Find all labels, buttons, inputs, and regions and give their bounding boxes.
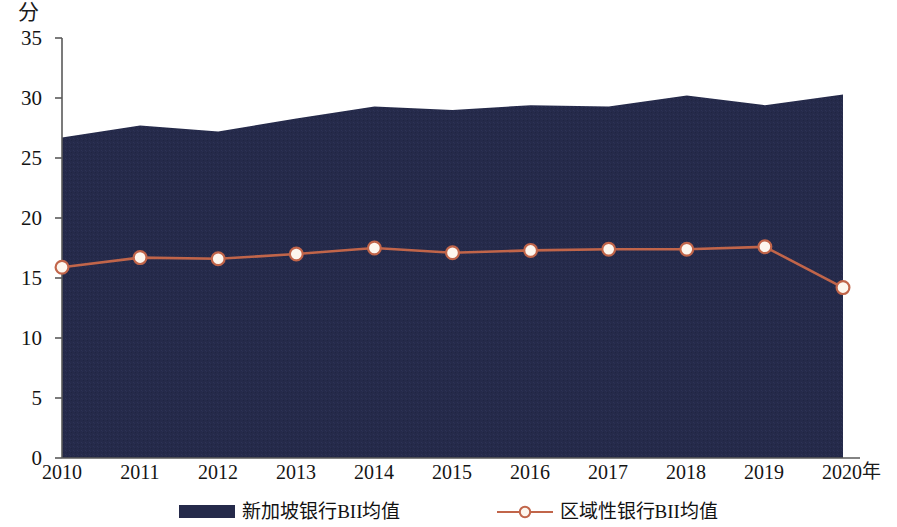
y-tick-label-25: 25 [0,148,42,169]
data-point-marker [759,240,772,253]
y-tick-label-30: 30 [0,88,42,109]
data-point-marker [56,261,69,274]
x-tick-label-2016: 2016 [495,462,565,482]
chart-container: 分 35 30 25 20 15 10 5 0 2010 2011 2012 2… [0,0,897,527]
x-tick-label-2012: 2012 [183,462,253,482]
legend-line-marker-icon [497,504,553,520]
x-tick-label-2010: 2010 [27,462,97,482]
data-point-marker [680,243,693,256]
x-tick-label-2017: 2017 [573,462,643,482]
legend-label-singapore-banks: 新加坡银行BII均值 [242,502,400,521]
x-tick-label-2019: 2019 [729,462,799,482]
chart-legend: 新加坡银行BII均值 区域性银行BII均值 [0,496,897,527]
y-tick-label-35: 35 [0,28,42,49]
legend-area-swatch-icon [179,505,235,518]
x-tick-label-2011: 2011 [105,462,175,482]
y-tick-label-5: 5 [0,388,42,409]
plot-area [0,0,897,495]
data-point-marker [368,242,381,255]
y-tick-label-15: 15 [0,268,42,289]
x-axis-title: 年 [862,462,881,481]
data-point-marker [290,248,303,261]
x-tick-label-2018: 2018 [651,462,721,482]
area-series-singapore-banks [62,94,843,458]
data-point-marker [602,243,615,256]
data-point-marker [134,251,147,264]
data-point-marker [446,246,459,259]
data-point-marker [837,281,850,294]
data-point-marker [212,252,225,265]
legend-item-singapore-banks: 新加坡银行BII均值 [179,502,400,521]
legend-item-regional-banks: 区域性银行BII均值 [497,502,718,521]
legend-label-regional-banks: 区域性银行BII均值 [560,502,718,521]
y-tick-label-20: 20 [0,208,42,229]
chart-plot-svg [0,0,897,495]
x-tick-label-2013: 2013 [261,462,331,482]
data-point-marker [524,244,537,257]
x-tick-label-2014: 2014 [339,462,409,482]
y-tick-label-10: 10 [0,328,42,349]
x-tick-label-2015: 2015 [417,462,487,482]
